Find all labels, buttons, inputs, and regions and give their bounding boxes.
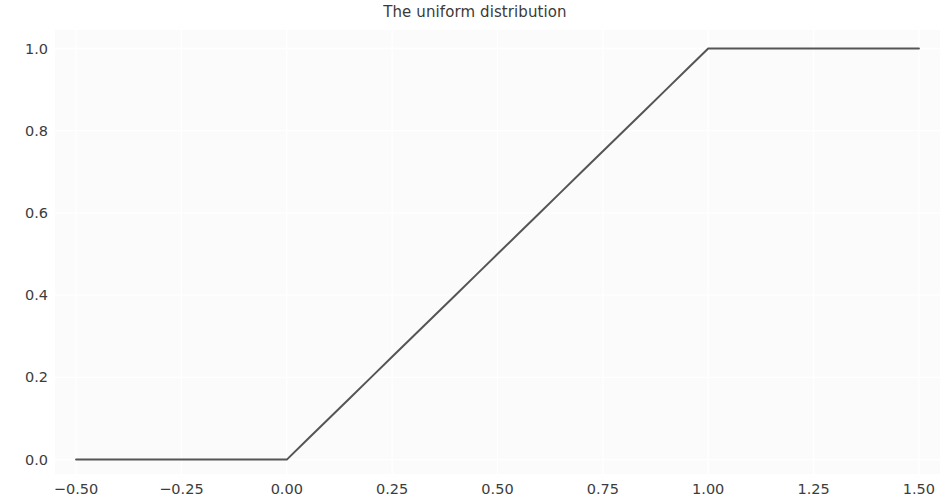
x-tick-label-0: −0.50 [54, 481, 98, 497]
x-tick-label-1: −0.25 [159, 481, 203, 497]
chart-title: The uniform distribution [0, 3, 950, 21]
data-series-line-0 [76, 49, 919, 460]
data-line-layer [55, 30, 940, 474]
y-tick-label-5: 1.0 [2, 41, 48, 57]
y-axis-tick-labels: 0.00.20.40.60.81.0 [0, 0, 48, 504]
y-tick-label-0: 0.0 [2, 452, 48, 468]
x-tick-label-4: 0.50 [481, 481, 513, 497]
x-tick-label-2: 0.00 [271, 481, 303, 497]
y-tick-label-1: 0.2 [2, 369, 48, 385]
plot-area [55, 30, 940, 474]
x-tick-label-5: 0.75 [587, 481, 619, 497]
y-tick-label-3: 0.6 [2, 205, 48, 221]
figure-canvas: The uniform distribution 0.00.20.40.60.8… [0, 0, 950, 504]
y-tick-label-4: 0.8 [2, 123, 48, 139]
x-tick-label-7: 1.25 [797, 481, 829, 497]
x-tick-label-3: 0.25 [376, 481, 408, 497]
x-tick-label-8: 1.50 [903, 481, 935, 497]
y-tick-label-2: 0.4 [2, 287, 48, 303]
x-axis-tick-labels: −0.50−0.250.000.250.500.751.001.251.50 [0, 481, 950, 504]
x-tick-label-6: 1.00 [692, 481, 724, 497]
